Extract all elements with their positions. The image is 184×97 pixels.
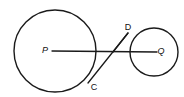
segment-p-to-q xyxy=(52,51,157,52)
label-point-d: D xyxy=(125,22,132,32)
geometry-figure: P Q C D xyxy=(0,0,184,97)
segment-d-chord xyxy=(113,33,128,52)
label-point-c: C xyxy=(91,82,98,92)
geometry-canvas: P Q C D xyxy=(0,0,184,97)
label-point-p: P xyxy=(42,45,48,55)
label-point-q: Q xyxy=(157,46,164,56)
